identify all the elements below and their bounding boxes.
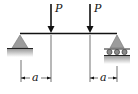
load-arrow-right-icon [87,4,94,33]
load-label-left: P [55,3,62,14]
load-arrow-left-icon [48,4,55,33]
dimension-label-right: a [100,72,107,83]
roller-support-icon [104,35,130,64]
dimension-label-left: a [32,72,39,83]
pin-support-icon [7,35,33,57]
load-label-right: P [94,3,101,14]
beam-diagram [0,0,138,94]
